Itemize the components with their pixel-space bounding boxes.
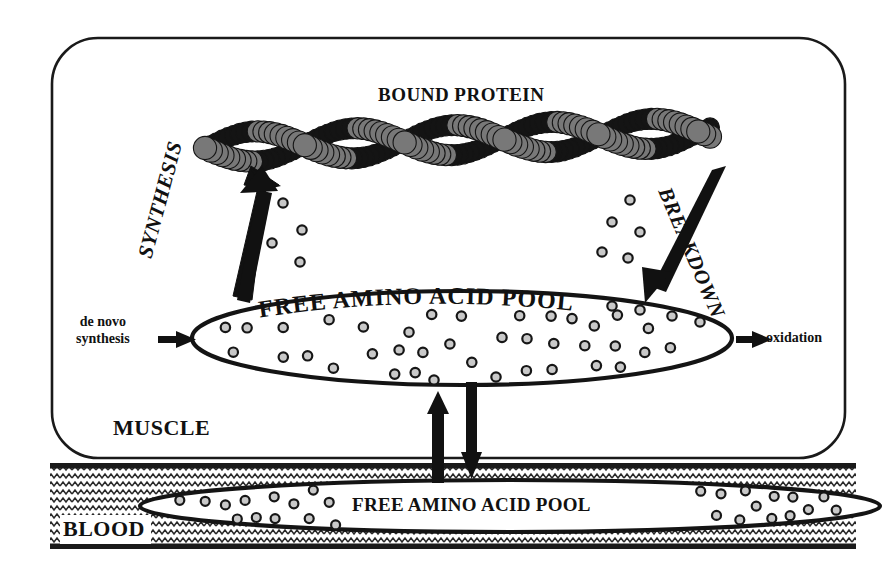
blood-pool-label: FREE AMINO ACID POOL: [352, 494, 591, 516]
amino-acid-dot: [175, 496, 184, 505]
amino-acid-dot: [635, 227, 644, 236]
amino-acid-dot: [305, 514, 314, 523]
amino-acid-dot: [590, 321, 599, 330]
de-novo-line-1: de novo: [80, 314, 126, 329]
amino-acid-dot: [832, 506, 841, 515]
amino-acid-dot: [497, 333, 506, 342]
amino-acid-dot: [467, 358, 476, 367]
amino-acid-dot: [549, 339, 558, 348]
amino-acid-dot: [735, 515, 744, 524]
amino-acid-dot: [767, 514, 776, 523]
amino-acid-dot: [741, 486, 750, 495]
muscle-compartment-label: MUSCLE: [113, 415, 210, 441]
amino-acid-dot: [623, 253, 632, 262]
amino-acid-dot: [712, 511, 721, 520]
amino-acid-dot: [279, 352, 288, 361]
amino-acid-dot: [547, 365, 556, 374]
diagram-canvas: FREE AMINO ACID POOL BOUND PROTEIN SYNTH…: [0, 0, 896, 579]
amino-acid-dot: [233, 515, 242, 524]
amino-acid-dot: [457, 311, 466, 320]
amino-acid-dot: [613, 310, 622, 319]
amino-acid-dot: [640, 348, 649, 357]
amino-acid-dot: [270, 492, 279, 501]
amino-acid-dot: [278, 198, 287, 207]
amino-acid-dot: [368, 349, 377, 358]
amino-acid-dot: [324, 315, 333, 324]
amino-acid-dot: [359, 322, 368, 331]
amino-acid-dot: [625, 195, 634, 204]
amino-acid-dot: [221, 500, 230, 509]
amino-acid-dot: [667, 311, 676, 320]
amino-acid-dot: [666, 343, 675, 352]
amino-acid-dot: [429, 375, 438, 384]
amino-acid-dot: [297, 225, 306, 234]
amino-acid-dot: [252, 513, 261, 522]
amino-acid-dot: [295, 257, 304, 266]
amino-acid-dot: [786, 511, 795, 520]
amino-acid-dot: [515, 311, 524, 320]
amino-acid-dot: [427, 310, 436, 319]
amino-acid-dot: [491, 372, 500, 381]
amino-acid-dot: [201, 497, 210, 506]
blood-compartment-label: BLOOD: [60, 515, 151, 544]
amino-acid-dot: [242, 323, 251, 332]
amino-acid-dot: [695, 317, 704, 326]
amino-acid-dot: [717, 489, 726, 498]
amino-acid-dot: [804, 505, 813, 514]
amino-acid-dot: [331, 520, 340, 529]
amino-acid-dot: [271, 514, 280, 523]
de-novo-line-2: synthesis: [76, 331, 130, 346]
amino-acid-dot: [229, 348, 238, 357]
amino-acid-dot: [592, 361, 601, 370]
amino-acid-dot: [404, 328, 413, 337]
amino-acid-dot: [611, 341, 620, 350]
amino-acid-dot: [303, 351, 312, 360]
de-novo-synthesis-label: de novo synthesis: [76, 313, 130, 347]
amino-acid-dot: [597, 247, 606, 256]
amino-acid-dot: [788, 493, 797, 502]
amino-acid-dot: [418, 348, 427, 357]
amino-acid-dot: [221, 323, 230, 332]
amino-acid-dot: [329, 364, 338, 373]
amino-acid-dot: [279, 323, 288, 332]
amino-acid-dot: [309, 486, 318, 495]
amino-acid-dot: [607, 217, 616, 226]
amino-acid-dot: [644, 324, 653, 333]
amino-acid-dot: [770, 492, 779, 501]
amino-acid-dot: [522, 366, 531, 375]
amino-acid-dot: [325, 498, 334, 507]
amino-acid-dot: [752, 502, 761, 511]
amino-acid-dot: [394, 345, 403, 354]
amino-acid-dot: [616, 362, 625, 371]
amino-acid-dot: [819, 492, 828, 501]
amino-acid-dot: [241, 496, 250, 505]
amino-acid-dot: [607, 301, 616, 310]
amino-acid-dot: [411, 368, 420, 377]
amino-acid-dot: [390, 369, 399, 378]
bound-protein-title: BOUND PROTEIN: [378, 84, 544, 106]
oxidation-label: oxidation: [766, 330, 822, 346]
amino-acid-dot: [445, 339, 454, 348]
amino-acid-dot: [289, 499, 298, 508]
amino-acid-dot: [267, 238, 276, 247]
amino-acid-dot: [635, 305, 644, 314]
amino-acid-dot: [522, 334, 531, 343]
amino-acid-dot: [580, 341, 589, 350]
amino-acid-dot: [696, 487, 705, 496]
